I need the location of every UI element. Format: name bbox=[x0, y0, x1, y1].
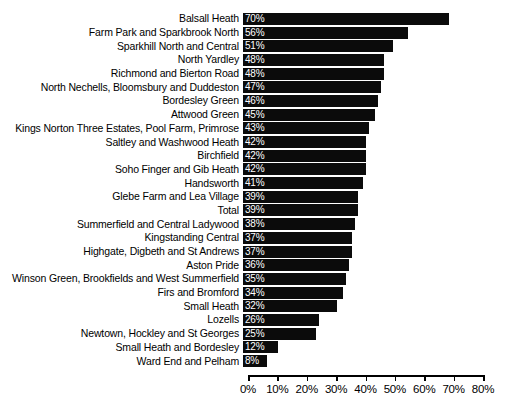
bar-value-label: 8% bbox=[243, 356, 259, 366]
bar: 35% bbox=[243, 273, 346, 285]
category-label: Small Heath and Bordesley bbox=[0, 342, 243, 353]
bar-track: 51% bbox=[243, 40, 508, 52]
x-axis-tick bbox=[454, 375, 456, 381]
bar-value-label: 25% bbox=[243, 329, 264, 339]
category-label: Farm Park and Sparkbrook North bbox=[0, 27, 243, 38]
x-axis-tick bbox=[277, 375, 279, 381]
bar-value-label: 37% bbox=[243, 247, 264, 257]
chart-row: North Nechells, Bloomsbury and Duddeston… bbox=[0, 80, 508, 94]
category-label: North Nechells, Bloomsbury and Duddeston bbox=[0, 82, 243, 93]
category-label: Ward End and Pelham bbox=[0, 356, 243, 367]
x-axis-tick bbox=[483, 375, 485, 381]
bar-value-label: 35% bbox=[243, 274, 264, 284]
chart-row: Sparkhill North and Central51% bbox=[0, 39, 508, 53]
bar-track: 35% bbox=[243, 273, 508, 285]
chart-row: Richmond and Bierton Road48% bbox=[0, 67, 508, 81]
bar: 8% bbox=[243, 355, 267, 367]
category-label: Newtown, Hockley and St Georges bbox=[0, 328, 243, 339]
bar-value-label: 42% bbox=[243, 164, 264, 174]
bar: 25% bbox=[243, 328, 316, 340]
x-axis-tick-label: 30% bbox=[325, 382, 347, 396]
chart-row: Saltley and Washwood Heath42% bbox=[0, 135, 508, 149]
chart-row: Winson Green, Brookfields and West Summe… bbox=[0, 272, 508, 286]
bar-track: 48% bbox=[243, 68, 508, 80]
bar-value-label: 43% bbox=[243, 123, 264, 133]
bar-track: 48% bbox=[243, 54, 508, 66]
bar-track: 25% bbox=[243, 328, 508, 340]
bar: 37% bbox=[243, 246, 352, 258]
chart-row: Glebe Farm and Lea Village39% bbox=[0, 190, 508, 204]
bar-track: 39% bbox=[243, 191, 508, 203]
bar: 36% bbox=[243, 259, 349, 271]
bar: 43% bbox=[243, 122, 369, 134]
bar: 26% bbox=[243, 314, 319, 326]
bar: 37% bbox=[243, 232, 352, 244]
category-label: Handsworth bbox=[0, 178, 243, 189]
category-label: Total bbox=[0, 205, 243, 216]
chart-row: Kingstanding Central37% bbox=[0, 231, 508, 245]
chart-rows: Balsall Heath70%Farm Park and Sparkbrook… bbox=[0, 12, 508, 368]
category-label: Sparkhill North and Central bbox=[0, 41, 243, 52]
x-axis-tick-label: 10% bbox=[266, 382, 288, 396]
chart-row: Summerfield and Central Ladywood38% bbox=[0, 217, 508, 231]
x-axis-tick-label: 20% bbox=[296, 382, 318, 396]
chart-row: Highgate, Digbeth and St Andrews37% bbox=[0, 245, 508, 259]
bar-value-label: 39% bbox=[243, 205, 264, 215]
bar: 12% bbox=[243, 341, 278, 353]
bar-track: 47% bbox=[243, 81, 508, 93]
chart-row: Small Heath32% bbox=[0, 299, 508, 313]
bar: 42% bbox=[243, 163, 366, 175]
category-label: Lozells bbox=[0, 314, 243, 325]
x-axis-tick-label: 80% bbox=[472, 382, 494, 396]
chart-row: Ward End and Pelham8% bbox=[0, 354, 508, 368]
bar-track: 70% bbox=[243, 13, 508, 25]
bar: 42% bbox=[243, 150, 366, 162]
category-label: Richmond and Bierton Road bbox=[0, 68, 243, 79]
bar-track: 12% bbox=[243, 341, 508, 353]
chart-row: Birchfield42% bbox=[0, 149, 508, 163]
chart-row: Farm Park and Sparkbrook North56% bbox=[0, 26, 508, 40]
bar-value-label: 48% bbox=[243, 69, 264, 79]
bar: 39% bbox=[243, 204, 358, 216]
category-label: North Yardley bbox=[0, 54, 243, 65]
bar-value-label: 32% bbox=[243, 301, 264, 311]
category-label: Firs and Bromford bbox=[0, 287, 243, 298]
bar-track: 45% bbox=[243, 109, 508, 121]
bar-value-label: 36% bbox=[243, 260, 264, 270]
bar-track: 26% bbox=[243, 314, 508, 326]
chart-row: Small Heath and Bordesley12% bbox=[0, 341, 508, 355]
bar: 41% bbox=[243, 177, 363, 189]
bar-value-label: 26% bbox=[243, 315, 264, 325]
bar-track: 56% bbox=[243, 27, 508, 39]
bar-value-label: 39% bbox=[243, 192, 264, 202]
bar: 32% bbox=[243, 300, 337, 312]
chart-row: Aston Pride36% bbox=[0, 258, 508, 272]
category-label: Kingstanding Central bbox=[0, 232, 243, 243]
x-axis-tick bbox=[336, 375, 338, 381]
bar: 38% bbox=[243, 218, 355, 230]
bar-value-label: 70% bbox=[243, 14, 264, 24]
bar-track: 42% bbox=[243, 163, 508, 175]
bar-value-label: 42% bbox=[243, 137, 264, 147]
bar-value-label: 45% bbox=[243, 110, 264, 120]
bar-track: 37% bbox=[243, 246, 508, 258]
bar: 45% bbox=[243, 109, 375, 121]
chart-row: Total39% bbox=[0, 204, 508, 218]
chart-row: Handsworth41% bbox=[0, 176, 508, 190]
x-axis-tick-label: 40% bbox=[354, 382, 376, 396]
category-label: Summerfield and Central Ladywood bbox=[0, 219, 243, 230]
chart-row: Attwood Green45% bbox=[0, 108, 508, 122]
category-label: Small Heath bbox=[0, 301, 243, 312]
x-axis-tick bbox=[307, 375, 309, 381]
bar: 39% bbox=[243, 191, 358, 203]
bar-value-label: 48% bbox=[243, 55, 264, 65]
bar-track: 46% bbox=[243, 95, 508, 107]
bar-value-label: 51% bbox=[243, 41, 264, 51]
bar-value-label: 12% bbox=[243, 342, 264, 352]
bar: 42% bbox=[243, 136, 366, 148]
bar: 48% bbox=[243, 54, 384, 66]
bar-value-label: 34% bbox=[243, 288, 264, 298]
x-axis-tick-label: 70% bbox=[442, 382, 464, 396]
bar-value-label: 42% bbox=[243, 151, 264, 161]
category-label: Bordesley Green bbox=[0, 95, 243, 106]
